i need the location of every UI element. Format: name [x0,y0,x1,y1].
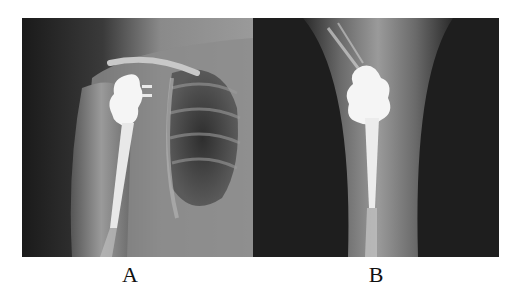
xray-image-a [22,18,253,257]
panel-label-a: A [110,262,150,288]
xray-image-b [253,18,499,257]
xray-panel-a [22,18,253,257]
panel-label-b: B [356,262,396,288]
xray-panel-b [253,18,499,257]
